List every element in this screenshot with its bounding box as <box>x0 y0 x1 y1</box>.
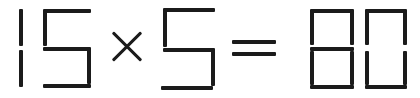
equals-label: = <box>228 0 229 1</box>
segment-top-right-vertical <box>403 11 407 45</box>
segment-top-left-vertical <box>163 10 167 47</box>
segment-top-left-vertical <box>43 11 47 46</box>
digit-8: 8 <box>305 0 357 98</box>
segment-bottom-bar <box>365 85 407 89</box>
digit-5-first-label: 5 <box>37 0 38 1</box>
segment-top-bar <box>43 9 91 13</box>
segment-top-left-vertical <box>310 11 314 45</box>
segment-top-left-vertical <box>19 9 23 46</box>
equals-operator: = <box>228 0 280 98</box>
segment-bottom-left-vertical <box>19 50 23 87</box>
segment-upper-bar <box>232 40 276 44</box>
segment-middle-bar <box>163 48 215 52</box>
segment-middle-bar <box>43 47 91 51</box>
digit-0: 0 <box>360 0 410 98</box>
segment-top-right-vertical <box>350 11 354 45</box>
segment-bottom-bar <box>310 85 354 89</box>
digit-5-second-label: 5 <box>155 0 156 1</box>
segment-lower-bar <box>232 52 276 56</box>
digit-8-label: 8 <box>305 0 306 1</box>
multiply-glyph <box>107 26 147 66</box>
segment-bottom-right-vertical <box>350 51 354 85</box>
multiply-label: × <box>105 0 106 1</box>
digit-5-second: 5 <box>155 0 217 98</box>
digit-1: 1 <box>19 0 27 98</box>
segment-bottom-left-vertical <box>365 51 369 85</box>
matchstick-puzzle-canvas: 1 5 × 5 = 8 <box>0 0 420 98</box>
segment-middle-bar <box>310 47 354 51</box>
segment-top-bar <box>365 9 407 13</box>
digit-1-label: 1 <box>19 0 20 1</box>
segment-bottom-bar <box>43 84 91 88</box>
multiply-operator: × <box>105 0 149 98</box>
segment-top-bar <box>163 8 215 12</box>
segment-bottom-left-vertical <box>310 51 314 85</box>
segment-bottom-right-vertical <box>211 50 215 86</box>
digit-5-first: 5 <box>37 0 95 98</box>
segment-bottom-right-vertical <box>403 51 407 85</box>
segment-top-left-vertical <box>365 11 369 45</box>
digit-0-label: 0 <box>360 0 361 1</box>
segment-top-bar <box>310 9 354 13</box>
segment-bottom-right-vertical <box>87 49 91 84</box>
segment-bottom-bar <box>161 86 213 90</box>
